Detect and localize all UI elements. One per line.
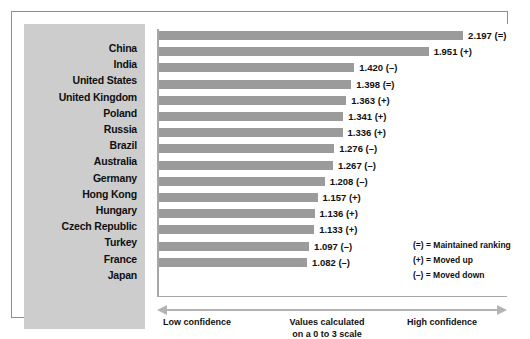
bar-value-label: 1.208 (–)	[330, 176, 368, 187]
bar	[159, 144, 334, 153]
bar	[159, 177, 325, 186]
bar	[159, 225, 314, 234]
bar-value-label: 1.276 (–)	[339, 143, 377, 154]
legend-entry: (+) = Moved up	[413, 253, 518, 268]
bar-value-label: 1.267 (–)	[338, 160, 376, 171]
confidence-arrow	[157, 305, 507, 315]
bar	[159, 258, 307, 267]
bar-row: 1.398 (=)	[145, 78, 520, 94]
country-label: Germany	[25, 172, 137, 185]
bar-value-label: 1.363 (+)	[351, 95, 389, 106]
bar	[159, 47, 429, 56]
figure-container: ChinaIndiaUnited StatesUnited KingdomPol…	[0, 0, 530, 339]
bar-value-label: 1.336 (+)	[348, 127, 386, 138]
bar-value-label: 1.082 (–)	[312, 257, 350, 268]
country-label: Hong Kong	[25, 188, 137, 201]
bar	[159, 242, 309, 251]
axis-label-low: Low confidence	[163, 317, 231, 329]
bar-row: 1.157 (+)	[145, 191, 520, 207]
bar-row: 1.336 (+)	[145, 126, 520, 142]
bar-row: 1.208 (–)	[145, 175, 520, 191]
arrow-right-icon	[497, 305, 507, 315]
bar-row: 1.363 (+)	[145, 94, 520, 110]
arrow-line	[166, 309, 498, 311]
bar-value-label: 1.398 (=)	[356, 79, 394, 90]
legend-entry: (=) = Maintained ranking	[413, 238, 518, 253]
country-label: Czech Republic	[25, 220, 137, 233]
bar-row: 1.267 (–)	[145, 159, 520, 175]
country-label: France	[25, 253, 137, 266]
country-label: United States	[25, 74, 137, 87]
country-label: Russia	[25, 123, 137, 136]
country-label: Turkey	[25, 236, 137, 249]
bar-value-label: 1.136 (+)	[320, 208, 358, 219]
bar	[159, 209, 315, 218]
bar-row: 1.420 (–)	[145, 61, 520, 77]
bar	[159, 193, 318, 202]
country-label: Japan	[25, 269, 137, 282]
bar-row: 1.951 (+)	[145, 45, 520, 61]
country-label: India	[25, 58, 137, 71]
bar-row: 1.136 (+)	[145, 207, 520, 223]
axis-label-high: High confidence	[407, 317, 477, 329]
bar-value-label: 1.951 (+)	[434, 46, 472, 57]
bar	[159, 161, 333, 170]
bar	[159, 128, 343, 137]
bar	[159, 31, 463, 40]
bar-row: 1.276 (–)	[145, 142, 520, 158]
axis-rule	[157, 296, 507, 297]
country-label: United Kingdom	[25, 91, 137, 104]
chart-frame: ChinaIndiaUnited StatesUnited KingdomPol…	[11, 11, 508, 318]
country-label: Australia	[25, 155, 137, 168]
bar	[159, 96, 346, 105]
plot-area: 2.197 (=)1.951 (+)1.420 (–)1.398 (=)1.36…	[145, 24, 520, 329]
bar-row: 2.197 (=)	[145, 29, 520, 45]
legend-entry: (–) = Moved down	[413, 268, 518, 283]
bar-row: 1.341 (+)	[145, 110, 520, 126]
legend: (=) = Maintained ranking(+) = Moved up(–…	[413, 238, 518, 283]
bar	[159, 112, 343, 121]
bar-value-label: 1.420 (–)	[359, 62, 397, 73]
bar-value-label: 2.197 (=)	[468, 30, 506, 41]
country-label: China	[25, 42, 137, 55]
bar	[159, 63, 354, 72]
country-label: Brazil	[25, 139, 137, 152]
country-label: Poland	[25, 107, 137, 120]
bar-value-label: 1.341 (+)	[348, 111, 386, 122]
bar-value-label: 1.157 (+)	[323, 192, 361, 203]
bar	[159, 80, 351, 89]
bar-row: 1.133 (+)	[145, 223, 520, 239]
axis-label-mid: Values calculatedon a 0 to 3 scale	[267, 317, 387, 339]
bar-value-label: 1.097 (–)	[314, 241, 352, 252]
country-label-panel: ChinaIndiaUnited StatesUnited KingdomPol…	[24, 24, 145, 329]
bar-value-label: 1.133 (+)	[319, 224, 357, 235]
country-label: Hungary	[25, 204, 137, 217]
